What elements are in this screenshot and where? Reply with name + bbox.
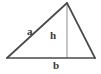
label-base-b: b (53, 60, 59, 71)
triangle-figure: a h b (0, 0, 101, 74)
label-height-h: h (50, 30, 56, 41)
triangle-side-right-line (67, 3, 95, 58)
label-side-a: a (27, 26, 33, 37)
triangle-side-a-line (7, 3, 67, 58)
